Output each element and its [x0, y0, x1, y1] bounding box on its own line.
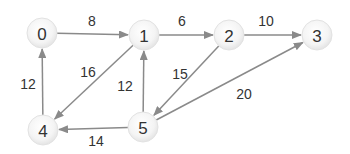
- node-4: 4: [28, 115, 58, 145]
- edge-weight-label: 8: [88, 13, 96, 29]
- edge-weight-label: 20: [236, 86, 252, 102]
- node-label: 0: [37, 25, 46, 44]
- edge-5-to-4: [59, 127, 128, 129]
- edge-weight-label: 12: [117, 78, 133, 94]
- node-label: 5: [138, 119, 147, 138]
- node-1: 1: [129, 20, 159, 50]
- edge-weight-label: 14: [88, 133, 104, 149]
- graph-diagram: 8610161215201214 012345: [0, 0, 350, 154]
- node-label: 3: [312, 27, 321, 46]
- node-0: 0: [27, 18, 57, 48]
- edge-5-to-1: [143, 51, 144, 112]
- node-5: 5: [128, 112, 158, 142]
- node-label: 2: [224, 27, 233, 46]
- node-3: 3: [302, 20, 332, 50]
- node-label: 1: [139, 27, 148, 46]
- edge-weight-label: 15: [172, 66, 188, 82]
- edge-weight-label: 16: [80, 64, 96, 80]
- edge-weight-label: 12: [20, 76, 36, 92]
- node-2: 2: [214, 20, 244, 50]
- edge-weight-label: 10: [258, 13, 274, 29]
- edge-weight-label: 6: [178, 13, 186, 29]
- edge-4-to-0: [42, 49, 43, 115]
- edge-0-to-1: [57, 33, 128, 34]
- node-label: 4: [38, 122, 47, 141]
